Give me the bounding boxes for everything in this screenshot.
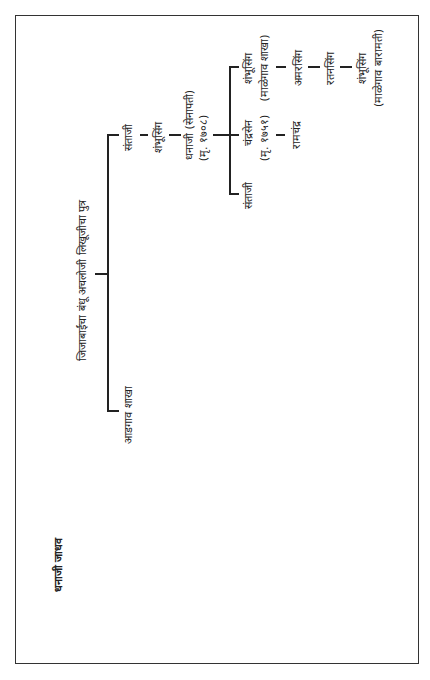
connector (140, 134, 148, 136)
connector (308, 66, 320, 68)
node-shambhusing-2-line2: (माळेगाव शाखा) (258, 34, 271, 101)
node-amarsing: अमरसिंग (292, 50, 305, 86)
node-ratansing: रतनसिंग (324, 52, 337, 85)
node-chandrasen-line2: (मृ. १७५१) (258, 115, 271, 162)
connector (169, 134, 181, 136)
connector (276, 66, 286, 68)
node-santaji-2: संताजी (242, 182, 255, 209)
connector (229, 66, 239, 68)
connector (213, 134, 229, 136)
node-shambhusing-3-line1: शंभूसिंग (356, 53, 369, 84)
node-dhanaji-line2: (मृ. १७०८) (197, 115, 210, 162)
branch-connector-santaji (107, 134, 119, 136)
node-dhanaji-line1: धनाजी (सेनापती) (183, 90, 196, 160)
connector (229, 134, 239, 136)
node-chandrasen-line1: चंद्रसेन (242, 120, 255, 146)
node-ramchandra: रामचंद्र (290, 121, 303, 149)
node-shambhusing-3-line2: (माळेगाव बारामती) (372, 29, 385, 107)
children-vertical-line (229, 66, 231, 194)
diagram-title: धनाजी जाधव (52, 538, 65, 593)
root-vertical-line (107, 134, 109, 412)
connector (276, 134, 285, 136)
root-label: जिजाबाईंचा बंधू अचलोजी लिखूजीचा पुत्र (76, 200, 89, 361)
branch-connector-adgaon (107, 410, 119, 412)
connector (229, 193, 239, 195)
connector (340, 66, 352, 68)
node-shambhusing-1: शंभूसिंग (152, 122, 165, 153)
node-adgaon-shakha: आडगाव शाखा (122, 386, 135, 444)
node-shambhusing-2-line1: शंभूसिंग (242, 53, 255, 84)
node-santaji-1: संताजी (122, 124, 135, 151)
